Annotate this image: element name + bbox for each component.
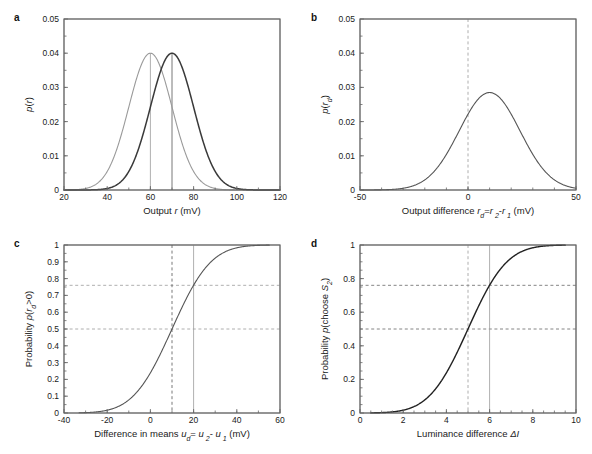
y-axis-title: Probability p(choose S2): [319, 278, 333, 380]
x-axis-title: Luminance difference ΔI: [417, 428, 520, 439]
x-tick-label: 50: [571, 192, 581, 202]
y-tick-label: 0: [350, 185, 355, 195]
x-tick-label: 8: [530, 415, 535, 425]
x-tick-label: 0: [358, 415, 363, 425]
y-tick-label: 0.1: [47, 391, 59, 401]
y-tick-label: 1: [350, 240, 355, 250]
y-axis-title: p(rd): [319, 95, 333, 115]
y-tick-label: 0.04: [42, 48, 59, 58]
y-tick-label: 0.05: [42, 14, 59, 24]
x-tick-label: 6: [487, 415, 492, 425]
x-axis-title: Output difference rd=r 2-r 1 (mV): [402, 205, 534, 219]
x-tick-label: 60: [275, 415, 285, 425]
y-tick-label: 0.01: [42, 151, 59, 161]
y-tick-label: 0: [54, 408, 59, 418]
y-tick-label: 0: [54, 185, 59, 195]
x-tick-label: 40: [102, 192, 112, 202]
y-tick-label: 0: [350, 408, 355, 418]
x-tick-label: 40: [232, 415, 242, 425]
figure-container: a2040608010012000.010.020.030.040.05Outp…: [0, 0, 592, 454]
x-tick-label: 10: [571, 415, 581, 425]
x-tick-label: 4: [444, 415, 449, 425]
x-tick-label: -40: [58, 415, 71, 425]
plot-frame-overlay: [360, 19, 576, 190]
x-tick-label: 20: [189, 415, 199, 425]
y-tick-label: 0.9: [47, 257, 59, 267]
data-curve: [371, 245, 565, 413]
y-tick-label: 0.5: [47, 324, 59, 334]
data-curve: [360, 93, 576, 190]
plot-frame-overlay: [64, 245, 280, 413]
x-tick-label: 80: [189, 192, 199, 202]
data-curve: [64, 53, 280, 190]
y-tick-label: 0.2: [47, 374, 59, 384]
y-tick-label: 0.3: [47, 358, 59, 368]
data-curve: [64, 53, 280, 190]
x-tick-label: 0: [148, 415, 153, 425]
plot-frame: [64, 245, 280, 413]
panel-letter-c: c: [14, 239, 20, 249]
x-tick-label: -20: [101, 415, 114, 425]
y-tick-label: 0.02: [338, 117, 355, 127]
y-tick-label: 0.03: [338, 82, 355, 92]
x-tick-label: -50: [354, 192, 367, 202]
y-tick-label: 0.05: [338, 14, 355, 24]
y-tick-label: 0.8: [47, 274, 59, 284]
y-tick-label: 0.6: [47, 307, 59, 317]
panel-letter-a: a: [14, 13, 20, 23]
y-tick-label: 0.4: [47, 341, 59, 351]
plot-frame-overlay: [64, 19, 280, 190]
y-tick-label: 0.7: [47, 290, 59, 300]
y-tick-label: 0.02: [42, 117, 59, 127]
data-curve: [79, 245, 269, 413]
x-tick-label: 120: [273, 192, 287, 202]
panel-letter-b: b: [311, 13, 317, 23]
y-tick-label: 0.8: [343, 274, 355, 284]
y-tick-label: 0.6: [343, 307, 355, 317]
y-axis-title: Probability p(rd>0): [23, 291, 37, 368]
x-tick-label: 2: [401, 415, 406, 425]
y-tick-label: 1: [54, 240, 59, 250]
y-tick-label: 0.4: [343, 341, 355, 351]
x-tick-label: 60: [146, 192, 156, 202]
plot-frame: [360, 19, 576, 190]
plot-frame: [360, 245, 576, 413]
x-tick-label: 20: [59, 192, 69, 202]
y-tick-label: 0.2: [343, 374, 355, 384]
x-tick-label: 0: [466, 192, 471, 202]
x-axis-title: Difference in means ud= u 2- u 1 (mV): [94, 428, 250, 442]
y-tick-label: 0.04: [338, 48, 355, 58]
x-axis-title: Output r (mV): [143, 205, 201, 216]
y-axis-title: p(r): [23, 97, 34, 113]
y-tick-label: 0.03: [42, 82, 59, 92]
plot-frame-overlay: [360, 245, 576, 413]
panel-letter-d: d: [311, 239, 317, 249]
plot-frame: [64, 19, 280, 190]
x-tick-label: 100: [230, 192, 244, 202]
y-tick-label: 0.01: [338, 151, 355, 161]
